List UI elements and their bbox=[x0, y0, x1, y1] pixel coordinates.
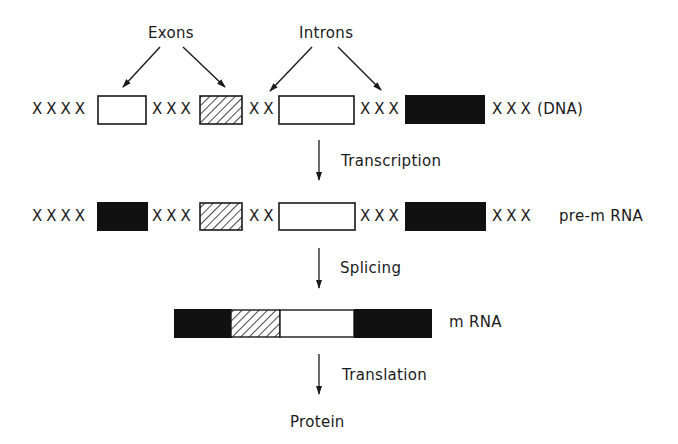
exons-label: Exons bbox=[148, 24, 194, 42]
pre-mrna-spacer-2: XXX bbox=[152, 207, 195, 225]
introns-arrows bbox=[270, 47, 381, 91]
introns-label: Introns bbox=[299, 24, 353, 42]
splicing-label: Splicing bbox=[340, 259, 401, 277]
dna-intron-white bbox=[279, 96, 354, 124]
mrna-bar bbox=[174, 309, 432, 338]
pre-mrna-black-1 bbox=[97, 202, 148, 231]
pre-mrna-spacer-1: XXXX bbox=[32, 207, 89, 225]
pre-mrna-hatched bbox=[200, 203, 242, 230]
mrna-label: m RNA bbox=[449, 313, 502, 331]
pre-mrna-black-2 bbox=[405, 202, 486, 231]
protein-label: Protein bbox=[290, 413, 345, 431]
dna-label: (DNA) bbox=[537, 100, 583, 118]
dna-spacer-1: XXXX bbox=[32, 100, 89, 118]
dna-exon-hatched bbox=[200, 96, 242, 124]
pre-mrna-spacer-3: XX bbox=[249, 207, 278, 225]
pre-mrna-label: pre-m RNA bbox=[559, 207, 643, 225]
pre-mrna-spacer-5: XXX bbox=[492, 207, 535, 225]
dna-spacer-2: XXX bbox=[152, 100, 195, 118]
exons-arrows bbox=[123, 47, 225, 87]
pre-mrna-spacer-4: XXX bbox=[360, 207, 403, 225]
dna-spacer-5: XXX bbox=[492, 100, 535, 118]
dna-spacer-3: XX bbox=[249, 100, 278, 118]
pre-mrna-white bbox=[279, 203, 355, 230]
transcription-label: Transcription bbox=[341, 152, 441, 170]
translation-label: Translation bbox=[342, 366, 427, 384]
dna-exon-white-1 bbox=[98, 96, 146, 124]
dna-spacer-4: XXX bbox=[360, 100, 403, 118]
dna-black-block bbox=[405, 95, 485, 124]
